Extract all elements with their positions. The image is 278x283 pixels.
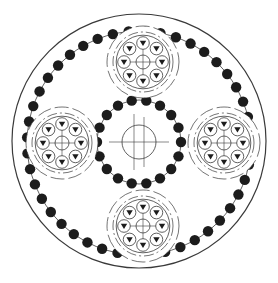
sun-ball <box>166 164 176 174</box>
ring-ball <box>30 179 40 189</box>
planet-left <box>26 107 98 179</box>
ring-ball <box>215 215 225 225</box>
sun-ball <box>155 100 165 110</box>
ring-ball <box>28 101 38 111</box>
ring-ball <box>53 60 63 70</box>
ring-ball <box>46 207 56 217</box>
ring-ball <box>56 219 66 229</box>
ring-ball <box>238 96 248 106</box>
sun-ball <box>173 122 183 132</box>
ring-ball <box>233 189 243 199</box>
ring-ball <box>240 175 250 185</box>
sun-gear <box>92 95 186 188</box>
ring-ball <box>92 34 102 44</box>
ring-ball <box>65 50 75 60</box>
sun-ball <box>155 173 165 183</box>
ring-ball <box>37 194 47 204</box>
ring-ball <box>211 57 221 67</box>
sun-ball <box>141 178 151 188</box>
sun-ball <box>173 151 183 161</box>
ring-ball <box>231 82 241 92</box>
ring-ball <box>222 69 232 79</box>
planet-right <box>188 107 260 179</box>
sun-ball <box>176 137 186 147</box>
sun-ball <box>127 178 137 188</box>
ring-ball <box>34 86 44 96</box>
ring-ball <box>185 38 195 48</box>
ring-ball <box>69 229 79 239</box>
sun-ball <box>102 164 112 174</box>
sun-ball <box>113 173 123 183</box>
ring-ball <box>97 244 107 254</box>
ring-ball <box>203 226 213 236</box>
ring-ball <box>175 242 185 252</box>
ring-ball <box>225 203 235 213</box>
sun-ball <box>102 110 112 120</box>
ring-ball <box>190 235 200 245</box>
ring-ball <box>78 41 88 51</box>
ring-ball <box>43 73 53 83</box>
sun-ball <box>166 110 176 120</box>
ring-ball <box>82 237 92 247</box>
planet-bottom <box>107 190 179 262</box>
planet-top <box>107 26 179 98</box>
sun-ball <box>113 100 123 110</box>
planetary-gear-diagram <box>0 0 278 283</box>
ring-ball <box>199 47 209 57</box>
ring-ball <box>25 164 35 174</box>
